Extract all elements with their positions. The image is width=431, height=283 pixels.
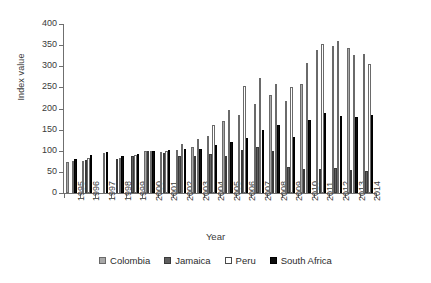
y-tick-label: 200 bbox=[24, 103, 57, 113]
bar-south-africa-2014 bbox=[371, 115, 373, 193]
y-tick-label: 400 bbox=[24, 18, 57, 28]
y-tick bbox=[59, 172, 64, 173]
bar-south-africa-2011 bbox=[324, 113, 326, 193]
y-tick-label: 0 bbox=[24, 187, 57, 197]
bar-south-africa-2000 bbox=[152, 151, 154, 193]
y-tick-label: 350 bbox=[24, 39, 57, 49]
bar-south-africa-2013 bbox=[355, 117, 357, 193]
bar-south-africa-2001 bbox=[168, 150, 170, 193]
legend-swatch-colombia-icon bbox=[99, 257, 106, 264]
bar-south-africa-1997 bbox=[106, 152, 108, 193]
bar-south-africa-1998 bbox=[121, 156, 123, 193]
bar-group bbox=[129, 24, 140, 193]
bar-group bbox=[98, 24, 109, 193]
y-tick bbox=[59, 66, 64, 67]
bar-south-africa-1995 bbox=[74, 159, 76, 193]
bar-chart-figure: Index value 050100150200250300350400 199… bbox=[0, 0, 431, 283]
legend-item-south[interactable]: South Africa bbox=[270, 255, 332, 266]
y-tick-label: 250 bbox=[24, 81, 57, 91]
legend-swatch-south-icon bbox=[270, 257, 277, 264]
bar-group bbox=[176, 24, 187, 193]
legend-swatch-peru-icon bbox=[225, 257, 232, 264]
bar-group bbox=[269, 24, 280, 193]
bar-south-africa-1996 bbox=[90, 155, 92, 193]
bar-south-africa-2007 bbox=[262, 130, 264, 193]
bar-south-africa-2004 bbox=[215, 145, 217, 193]
y-tick bbox=[59, 130, 64, 131]
y-tick-label: 150 bbox=[24, 124, 57, 134]
bar-group bbox=[160, 24, 171, 193]
bar-south-africa-2006 bbox=[246, 138, 248, 193]
y-tick bbox=[59, 87, 64, 88]
bar-south-africa-2003 bbox=[199, 149, 201, 193]
x-tick bbox=[64, 193, 65, 198]
bar-south-africa-2012 bbox=[340, 116, 342, 193]
legend-label: Colombia bbox=[110, 255, 150, 266]
bar-south-africa-1999 bbox=[137, 154, 139, 193]
bar-group bbox=[254, 24, 265, 193]
y-tick bbox=[59, 109, 64, 110]
bar-group bbox=[363, 24, 374, 193]
legend-label: South Africa bbox=[281, 255, 332, 266]
bar-group bbox=[285, 24, 296, 193]
bar-south-africa-2005 bbox=[230, 142, 232, 193]
x-axis-title: Year bbox=[0, 231, 431, 242]
legend-item-jamaica[interactable]: Jamaica bbox=[164, 255, 210, 266]
bar-group bbox=[207, 24, 218, 193]
bar-group bbox=[66, 24, 77, 193]
y-tick-label: 100 bbox=[24, 145, 57, 155]
bar-group bbox=[347, 24, 358, 193]
bar-group bbox=[332, 24, 343, 193]
bar-south-africa-2010 bbox=[308, 120, 310, 193]
y-tick-label: 50 bbox=[24, 166, 57, 176]
bar-group bbox=[82, 24, 93, 193]
bar-group bbox=[222, 24, 233, 193]
y-tick bbox=[59, 151, 64, 152]
legend-label: Peru bbox=[236, 255, 256, 266]
chart-legend: ColombiaJamaicaPeruSouth Africa bbox=[0, 255, 431, 266]
bar-colombia-1995 bbox=[66, 162, 68, 193]
bar-group bbox=[316, 24, 327, 193]
bar-south-africa-2002 bbox=[184, 149, 186, 193]
y-tick-label: 300 bbox=[24, 60, 57, 70]
legend-item-peru[interactable]: Peru bbox=[225, 255, 256, 266]
bar-group bbox=[113, 24, 124, 193]
bar-south-africa-2009 bbox=[293, 137, 295, 193]
bar-group bbox=[191, 24, 202, 193]
x-tick-label: 2014 bbox=[372, 181, 382, 201]
bar-group bbox=[300, 24, 311, 193]
bar-south-africa-2008 bbox=[277, 125, 279, 193]
y-tick bbox=[59, 24, 64, 25]
y-tick bbox=[59, 45, 64, 46]
legend-swatch-jamaica-icon bbox=[164, 257, 171, 264]
plot-area: 050100150200250300350400 199519961997199… bbox=[64, 24, 376, 193]
bar-group bbox=[144, 24, 155, 193]
bar-group bbox=[238, 24, 249, 193]
legend-item-colombia[interactable]: Colombia bbox=[99, 255, 150, 266]
legend-label: Jamaica bbox=[175, 255, 210, 266]
